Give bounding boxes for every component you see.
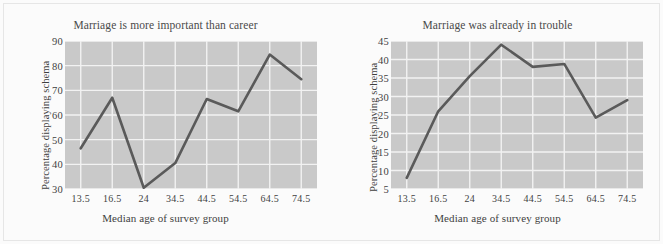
data-line-left [81, 55, 302, 188]
chart-panel-left: Marriage is more important than career P… [0, 0, 331, 244]
line-chart-svg-left [65, 41, 317, 189]
x-tick-label: 24 [139, 193, 149, 204]
x-tick-label: 44.5 [198, 193, 216, 204]
y-tick-label: 40 [363, 54, 389, 65]
y-axis-ticks-right: 45403530252015105 [359, 41, 389, 189]
x-axis-label-left: Median age of survey group [0, 212, 331, 224]
x-tick-label: 34.5 [492, 193, 510, 204]
x-tick-label: 64.5 [587, 193, 605, 204]
chart-title-right: Marriage was already in trouble [332, 19, 663, 31]
y-tick-label: 80 [37, 60, 63, 71]
x-tick-label: 16.5 [103, 193, 121, 204]
y-tick-label: 90 [37, 36, 63, 47]
y-tick-label: 10 [363, 165, 389, 176]
chart-title-left: Marriage is more important than career [0, 19, 331, 31]
x-tick-label: 16.5 [429, 193, 447, 204]
x-tick-label: 13.5 [398, 193, 416, 204]
y-tick-label: 30 [37, 184, 63, 195]
x-tick-label: 54.5 [229, 193, 247, 204]
y-tick-label: 50 [37, 134, 63, 145]
x-axis-ticks-left: 13.516.52434.544.554.564.574.5 [65, 193, 317, 209]
y-tick-label: 30 [363, 91, 389, 102]
x-axis-label-right: Median age of survey group [332, 212, 663, 224]
y-tick-label: 15 [363, 147, 389, 158]
y-tick-label: 45 [363, 36, 389, 47]
x-axis-ticks-right: 13.516.52434.544.554.564.574.5 [391, 193, 643, 209]
x-tick-label: 74.5 [618, 193, 636, 204]
gridlines-right [391, 41, 643, 189]
x-tick-label: 44.5 [524, 193, 542, 204]
y-axis-ticks-left: 90807060504030 [33, 41, 63, 189]
data-line-right [407, 45, 628, 178]
line-chart-svg-right [391, 41, 643, 189]
x-tick-label: 34.5 [166, 193, 184, 204]
x-tick-label: 64.5 [261, 193, 279, 204]
x-tick-label: 74.5 [292, 193, 310, 204]
y-tick-label: 20 [363, 128, 389, 139]
chart-panel-right: Marriage was already in trouble Percenta… [332, 0, 663, 244]
y-tick-label: 35 [363, 73, 389, 84]
x-tick-label: 54.5 [555, 193, 573, 204]
y-tick-label: 25 [363, 110, 389, 121]
y-tick-label: 40 [37, 159, 63, 170]
plot-area-left [65, 41, 317, 189]
figure-container: Marriage is more important than career P… [0, 0, 663, 244]
x-tick-label: 13.5 [72, 193, 90, 204]
y-tick-label: 70 [37, 85, 63, 96]
x-tick-label: 24 [465, 193, 475, 204]
y-tick-label: 5 [363, 184, 389, 195]
y-tick-label: 60 [37, 110, 63, 121]
plot-area-right [391, 41, 643, 189]
